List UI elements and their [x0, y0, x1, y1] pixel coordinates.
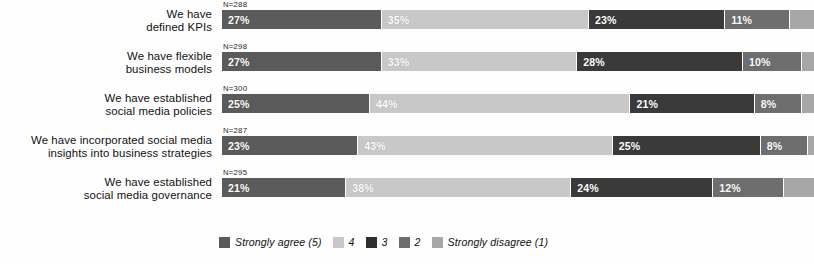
category-label: We have flexiblebusiness models: [0, 50, 212, 76]
legend-item[interactable]: 4: [333, 236, 355, 248]
sample-size-label: N=295: [222, 168, 814, 178]
bar-segment-value: 43%: [358, 140, 386, 152]
bar-area: N=28827%35%23%11%: [222, 0, 814, 29]
bar-segment: 27%: [222, 10, 382, 29]
bar-segment: 28%: [577, 52, 743, 71]
bar-segment-value: 8%: [755, 98, 777, 110]
legend-label: Strongly agree (5): [235, 236, 322, 248]
sample-size-label: N=298: [222, 42, 814, 52]
category-label-line: social media governance: [0, 189, 212, 202]
category-label-line: We have: [0, 8, 212, 21]
legend-swatch-icon: [399, 237, 410, 248]
bar-segment-value: 27%: [222, 14, 250, 26]
bar-segment-value: 25%: [222, 98, 250, 110]
bar-segment: 21%: [630, 94, 754, 113]
legend-label: 3: [382, 236, 388, 248]
stacked-bar-chart: We havedefined KPIsN=28827%35%23%11%We h…: [0, 0, 814, 264]
bar-segment-value: 35%: [382, 14, 410, 26]
bar-segment: 8%: [755, 94, 802, 113]
bar-segment: [802, 94, 814, 113]
bar-segment-value: 44%: [370, 98, 398, 110]
bar-segment-value: 23%: [222, 140, 250, 152]
bar-segment-value: 21%: [630, 98, 658, 110]
legend-swatch-icon: [219, 237, 230, 248]
chart-row: We have incorporated social mediainsight…: [0, 126, 814, 168]
bar-segment-value: 38%: [346, 182, 374, 194]
legend-label: 2: [415, 236, 421, 248]
chart-rows: We havedefined KPIsN=28827%35%23%11%We h…: [0, 0, 814, 210]
category-label-line: insights into business strategies: [0, 147, 212, 160]
bar-segment: 35%: [382, 10, 589, 29]
bar-segment-value: 24%: [571, 182, 599, 194]
bar-segment: 10%: [743, 52, 802, 71]
category-label-line: We have established: [0, 92, 212, 105]
legend-item[interactable]: 2: [399, 236, 421, 248]
chart-row: We have establishedsocial media governan…: [0, 168, 814, 210]
category-label-line: defined KPIs: [0, 21, 212, 34]
bar-segment: 33%: [382, 52, 577, 71]
sample-size-label: N=300: [222, 84, 814, 94]
bar-segment: [790, 10, 814, 29]
sample-size-label: N=288: [222, 0, 814, 10]
bar-segment-value: 23%: [589, 14, 617, 26]
bar-segment: [808, 136, 814, 155]
category-label-line: social media policies: [0, 105, 212, 118]
chart-row: We havedefined KPIsN=28827%35%23%11%: [0, 0, 814, 42]
bar-segment: 43%: [358, 136, 613, 155]
bar-segment-value: 11%: [725, 14, 752, 26]
category-label: We havedefined KPIs: [0, 8, 212, 34]
legend-swatch-icon: [366, 237, 377, 248]
bar-segment: [784, 178, 814, 197]
bar-segment-value: 8%: [761, 140, 783, 152]
bar-segment: 38%: [346, 178, 571, 197]
category-label: We have establishedsocial media policies: [0, 92, 212, 118]
bar-area: N=29827%33%28%10%: [222, 42, 814, 71]
stacked-bar: 27%33%28%10%: [222, 52, 814, 71]
chart-legend: Strongly agree (5)432Strongly disagree (…: [0, 236, 814, 248]
stacked-bar: 27%35%23%11%: [222, 10, 814, 29]
category-label-line: We have flexible: [0, 50, 212, 63]
bar-segment-value: 27%: [222, 56, 250, 68]
sample-size-label: N=287: [222, 126, 814, 136]
bar-segment: 27%: [222, 52, 382, 71]
bar-segment: 12%: [713, 178, 784, 197]
chart-row: We have flexiblebusiness modelsN=29827%3…: [0, 42, 814, 84]
legend-item[interactable]: Strongly disagree (1): [432, 236, 548, 248]
bar-segment: 21%: [222, 178, 346, 197]
bar-segment: 23%: [589, 10, 725, 29]
category-label-line: business models: [0, 63, 212, 76]
legend-item[interactable]: 3: [366, 236, 388, 248]
bar-area: N=30025%44%21%8%: [222, 84, 814, 113]
bar-segment-value: 10%: [743, 56, 771, 68]
legend-label: Strongly disagree (1): [448, 236, 548, 248]
legend-item[interactable]: Strongly agree (5): [219, 236, 322, 248]
bar-segment-value: 33%: [382, 56, 410, 68]
bar-segment-value: 21%: [222, 182, 250, 194]
bar-segment-value: 12%: [713, 182, 741, 194]
bar-segment: 44%: [370, 94, 630, 113]
legend-label: 4: [349, 236, 355, 248]
category-label: We have incorporated social mediainsight…: [0, 134, 212, 160]
bar-segment: 11%: [725, 10, 790, 29]
bar-area: N=28723%43%25%8%: [222, 126, 814, 155]
bar-segment-value: 28%: [577, 56, 605, 68]
category-label-line: We have established: [0, 176, 212, 189]
bar-segment: 23%: [222, 136, 358, 155]
stacked-bar: 23%43%25%8%: [222, 136, 814, 155]
legend-swatch-icon: [333, 237, 344, 248]
stacked-bar: 25%44%21%8%: [222, 94, 814, 113]
legend-swatch-icon: [432, 237, 443, 248]
chart-row: We have establishedsocial media policies…: [0, 84, 814, 126]
category-label-line: We have incorporated social media: [0, 134, 212, 147]
bar-area: N=29521%38%24%12%: [222, 168, 814, 197]
bar-segment: 25%: [222, 94, 370, 113]
bar-segment: 24%: [571, 178, 713, 197]
bar-segment: 25%: [613, 136, 761, 155]
category-label: We have establishedsocial media governan…: [0, 176, 212, 202]
stacked-bar: 21%38%24%12%: [222, 178, 814, 197]
bar-segment: [802, 52, 814, 71]
bar-segment: 8%: [761, 136, 808, 155]
bar-segment-value: 25%: [613, 140, 641, 152]
